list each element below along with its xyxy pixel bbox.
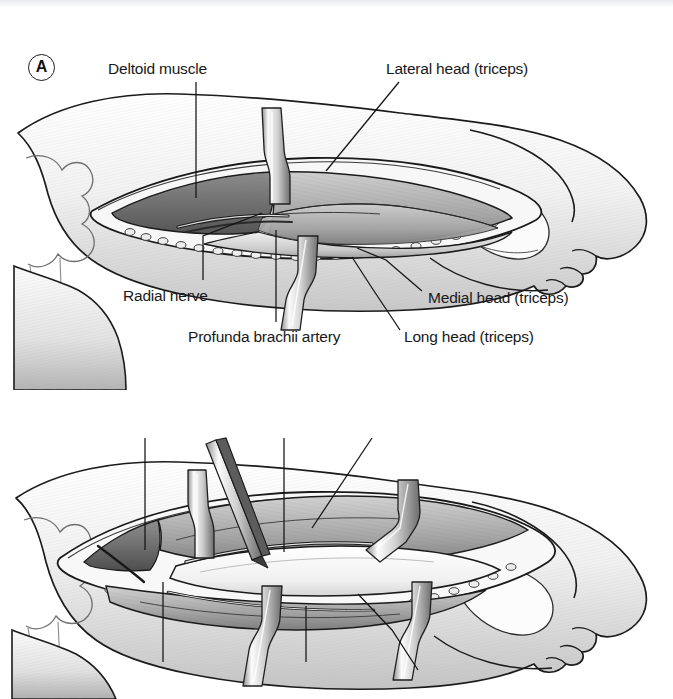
scan-edge-band: [0, 0, 673, 7]
label-profunda-brachii-artery-a: Profunda brachii artery: [188, 328, 340, 345]
label-long-head-triceps-a: Long head (triceps): [404, 328, 534, 345]
panel-badge-a: A: [28, 54, 55, 81]
label-lateral-head-triceps-a: Lateral head (triceps): [386, 60, 528, 77]
panel-a: A Deltoid muscle Lateral head (triceps) …: [0, 8, 673, 390]
figure-page: A Deltoid muscle Lateral head (triceps) …: [0, 0, 673, 699]
label-deltoid-muscle-a: Deltoid muscle: [108, 60, 207, 77]
torso-shading-a: [14, 266, 126, 390]
panel-b-illustration: [0, 390, 673, 699]
label-medial-head-triceps-a: Medial head (triceps): [428, 289, 569, 306]
label-radial-nerve-a: Radial nerve: [123, 287, 208, 304]
panel-b: B Deltoid muscle Radial nerve Lateral he…: [0, 390, 673, 699]
